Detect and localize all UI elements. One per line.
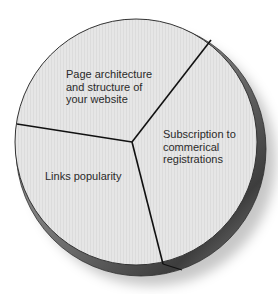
slice-label-page-architecture: Page architecture and structure of your … (66, 68, 152, 106)
pie-chart-graphic (0, 0, 278, 294)
pie-chart: Page architecture and structure of your … (0, 0, 278, 294)
slice-label-subscription: Subscription to commerical registrations (163, 128, 236, 166)
slice-label-links-popularity: Links popularity (45, 170, 121, 183)
